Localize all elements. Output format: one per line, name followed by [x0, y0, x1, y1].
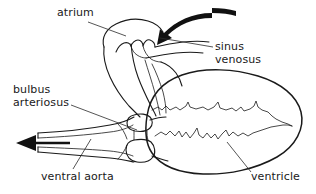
leader-ventricle	[227, 142, 251, 172]
sinus-venosus-shape	[145, 41, 209, 115]
ventricle-trabeculae-lower	[155, 125, 292, 139]
label-bulbus-arteriosus: bulbus arteriosus	[13, 84, 69, 109]
fish-heart-diagram: atrium sinus venosus bulbus arteriosus v…	[0, 0, 316, 194]
label-bulbus-line1: bulbus	[13, 84, 69, 97]
leader-ventral-aorta	[73, 139, 91, 169]
label-sinus-venosus: sinus venosus	[215, 41, 261, 66]
ventricle-trabeculae-upper	[152, 101, 292, 126]
label-sinus-line2: venosus	[215, 54, 261, 67]
label-sinus-line1: sinus	[215, 41, 261, 54]
label-bulbus-line2: arteriosus	[13, 97, 69, 110]
leader-atrium	[88, 22, 126, 36]
ventricle-shape	[146, 70, 302, 174]
label-ventricle: ventricle	[251, 171, 300, 184]
leader-sinus-venosus	[160, 38, 213, 47]
label-ventral-aorta: ventral aorta	[41, 171, 114, 184]
label-atrium: atrium	[57, 7, 94, 20]
